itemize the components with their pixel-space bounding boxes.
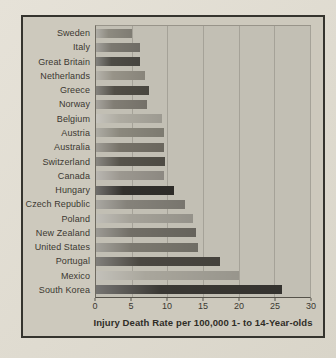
chart-row — [96, 269, 310, 283]
country-label: South Korea — [23, 283, 95, 297]
bar — [96, 57, 140, 66]
chart-row — [96, 97, 310, 111]
chart-row — [96, 69, 310, 83]
chart-row — [96, 154, 310, 168]
x-axis-tick-label: 10 — [162, 301, 172, 311]
chart-row — [96, 126, 310, 140]
chart-panel: SwedenItalyGreat BritainNetherlandsGreec… — [21, 15, 325, 338]
x-axis: 051015202530 — [95, 298, 311, 313]
country-label: Switzerland — [23, 154, 95, 168]
bar — [96, 43, 140, 52]
x-axis-tick-label: 5 — [128, 301, 133, 311]
bar — [96, 128, 164, 137]
bar — [96, 228, 196, 237]
chart-body: SwedenItalyGreat BritainNetherlandsGreec… — [23, 25, 311, 298]
country-label: Italy — [23, 40, 95, 54]
chart-row — [96, 197, 310, 211]
country-label: Greece — [23, 83, 95, 97]
country-label: Australia — [23, 140, 95, 154]
bar — [96, 29, 132, 38]
chart-row — [96, 140, 310, 154]
bar — [96, 86, 149, 95]
country-label-column: SwedenItalyGreat BritainNetherlandsGreec… — [23, 25, 95, 298]
country-label: Netherlands — [23, 69, 95, 83]
chart-row — [96, 112, 310, 126]
x-axis-tick-label: 0 — [92, 301, 97, 311]
bar — [96, 71, 145, 80]
chart-row — [96, 169, 310, 183]
bar — [96, 186, 174, 195]
bar — [96, 271, 239, 280]
country-label: Czech Republic — [23, 197, 95, 211]
bar — [96, 214, 193, 223]
chart-row — [96, 183, 310, 197]
bar — [96, 285, 282, 294]
chart-row — [96, 55, 310, 69]
country-label: Belgium — [23, 112, 95, 126]
bar — [96, 157, 165, 166]
chart-row — [96, 240, 310, 254]
country-label: United States — [23, 240, 95, 254]
page-background: SwedenItalyGreat BritainNetherlandsGreec… — [0, 0, 336, 358]
country-label: Hungary — [23, 183, 95, 197]
chart-row — [96, 211, 310, 225]
x-axis-tick-label: 25 — [270, 301, 280, 311]
chart-row — [96, 40, 310, 54]
x-axis-tick-label: 20 — [234, 301, 244, 311]
country-label: Portugal — [23, 254, 95, 268]
chart-row — [96, 254, 310, 268]
country-label: New Zealand — [23, 226, 95, 240]
country-label: Canada — [23, 169, 95, 183]
country-label: Poland — [23, 211, 95, 225]
bar-rows — [96, 26, 310, 297]
plot-area — [95, 25, 311, 298]
x-axis-title: Injury Death Rate per 100,000 1- to 14-Y… — [83, 313, 323, 328]
chart-row — [96, 26, 310, 40]
x-axis-tick-label: 15 — [198, 301, 208, 311]
chart-row — [96, 226, 310, 240]
x-axis-tick-label: 30 — [306, 301, 316, 311]
country-label: Norway — [23, 97, 95, 111]
bar — [96, 257, 220, 266]
country-label: Austria — [23, 126, 95, 140]
bar — [96, 243, 198, 252]
grid-line — [310, 26, 311, 297]
country-label: Sweden — [23, 26, 95, 40]
chart-row — [96, 283, 310, 297]
country-label: Great Britain — [23, 55, 95, 69]
bar — [96, 171, 164, 180]
country-label: Mexico — [23, 269, 95, 283]
bar — [96, 114, 162, 123]
bar — [96, 100, 147, 109]
bar — [96, 200, 185, 209]
chart-row — [96, 83, 310, 97]
bar-chart: SwedenItalyGreat BritainNetherlandsGreec… — [23, 17, 323, 336]
bar — [96, 143, 164, 152]
